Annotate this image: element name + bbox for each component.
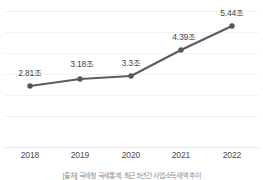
data-label-2022: 5.44조 (220, 6, 244, 18)
data-label-2019: 3.18조 (70, 57, 94, 69)
x-tick-2022: 2022 (223, 150, 242, 160)
data-label-2020: 3.3조 (121, 56, 140, 68)
data-label-2018: 2.81조 (18, 66, 42, 78)
x-tick-2018: 2018 (21, 150, 40, 160)
data-point-2019 (77, 76, 82, 81)
data-point-2018 (27, 83, 32, 88)
line-chart: 2.81조 3.18조 3.3조 4.39조 5.44조 2018 2019 2… (0, 0, 263, 180)
x-axis: 2018 2019 2020 2021 2022 (0, 148, 263, 166)
plot-area: 2.81조 3.18조 3.3조 4.39조 5.44조 (0, 0, 263, 148)
x-tick-2020: 2020 (122, 150, 141, 160)
data-point-2021 (178, 47, 183, 52)
data-point-2020 (128, 73, 133, 78)
x-tick-2019: 2019 (71, 150, 90, 160)
chart-source-caption: [출처] 국세청 국세통계, 최근 5년간 사업소득세액 추이 (0, 170, 263, 180)
x-tick-2021: 2021 (172, 150, 191, 160)
data-label-2021: 4.39조 (172, 30, 196, 42)
data-point-2022 (229, 23, 234, 28)
